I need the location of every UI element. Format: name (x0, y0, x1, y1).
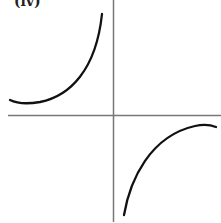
graph (0, 0, 221, 223)
upper-left-branch (10, 14, 102, 103)
lower-right-branch (124, 125, 216, 215)
